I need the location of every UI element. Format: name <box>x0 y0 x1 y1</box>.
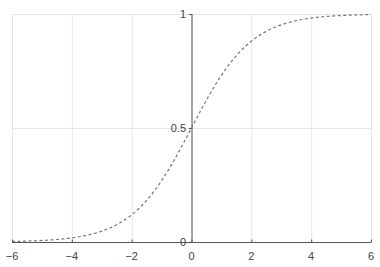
y-tick-label: 0 <box>180 236 186 248</box>
y-tick-label: 0.5 <box>171 122 186 134</box>
x-tick-label: −2 <box>125 250 138 262</box>
y-tick-label: 1 <box>180 8 186 20</box>
y-tick-labels: 00.51 <box>171 8 186 248</box>
x-tick-label: −6 <box>6 250 19 262</box>
x-tick-label: 4 <box>308 250 314 262</box>
x-tick-label: 0 <box>188 250 194 262</box>
x-tick-label: 2 <box>248 250 254 262</box>
x-tick-labels: −6−4−20246 <box>6 250 374 262</box>
x-tick-label: 6 <box>368 250 374 262</box>
x-tick-label: −4 <box>66 250 79 262</box>
sigmoid-chart: −6−4−20246 00.51 <box>0 0 380 267</box>
